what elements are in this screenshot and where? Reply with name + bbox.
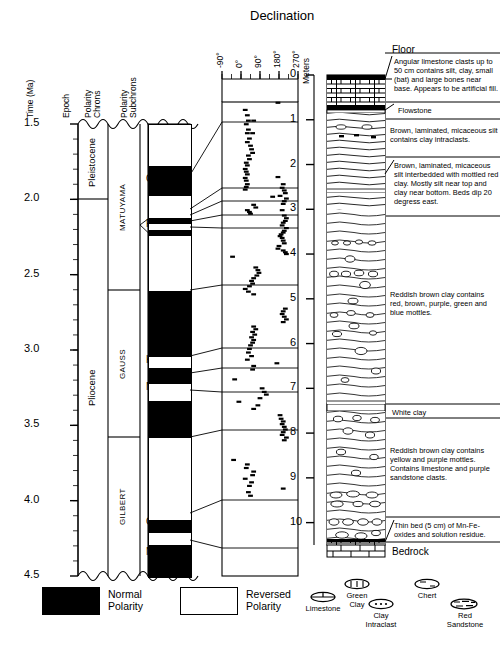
reunion-leader xyxy=(0,0,504,656)
magnetostratigraphy-figure: Declination Time (Ma) Epoch Polarity Chr… xyxy=(0,0,504,656)
